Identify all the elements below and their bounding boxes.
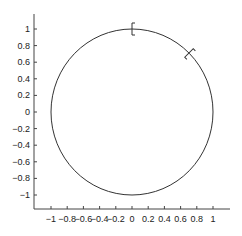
x-tick-label: −1 bbox=[46, 214, 56, 224]
x-tick-label: 1 bbox=[210, 214, 215, 224]
x-tick-label: 0.4 bbox=[158, 214, 171, 224]
x-tick-label: 0.8 bbox=[191, 214, 204, 224]
y-tick-label: 0.4 bbox=[17, 74, 30, 84]
circle-chart: 10.80.60.40.20−0.2−0.4−0.6−0.8−1 −1−0.8−… bbox=[0, 0, 242, 236]
x-tick-label: −0.4 bbox=[91, 214, 109, 224]
y-axis-ticks: 10.80.60.40.20−0.2−0.4−0.6−0.8−1 bbox=[12, 24, 37, 200]
y-tick-label: −0.6 bbox=[12, 157, 30, 167]
y-tick-label: −0.4 bbox=[12, 140, 30, 150]
y-tick-label: 0.8 bbox=[17, 41, 30, 51]
x-tick-label: 0.6 bbox=[174, 214, 187, 224]
y-tick-label: 0.6 bbox=[17, 57, 30, 67]
x-tick-label: 0 bbox=[129, 214, 134, 224]
y-tick-label: 0.2 bbox=[17, 90, 30, 100]
y-tick-label: −0.8 bbox=[12, 173, 30, 183]
y-tick-label: 0 bbox=[25, 107, 30, 117]
x-tick-label: 0.2 bbox=[142, 214, 155, 224]
x-tick-label: −0.2 bbox=[107, 214, 125, 224]
x-tick-label: −0.8 bbox=[58, 214, 76, 224]
y-tick-label: −0.2 bbox=[12, 124, 30, 134]
y-tick-label: 1 bbox=[25, 24, 30, 34]
y-tick-label: −1 bbox=[20, 190, 30, 200]
x-tick-label: −0.6 bbox=[75, 214, 93, 224]
